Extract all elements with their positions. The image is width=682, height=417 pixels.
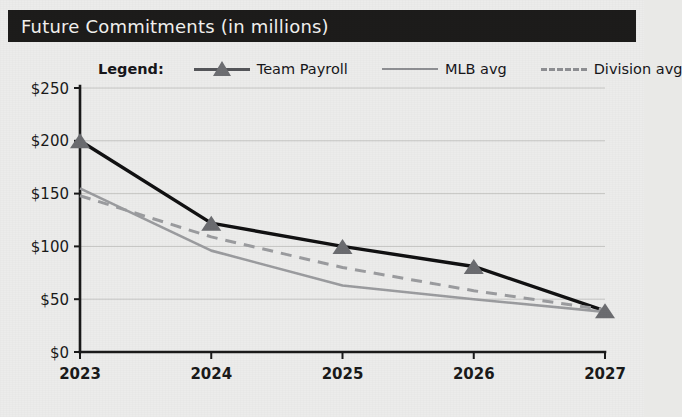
y-axis-tick-label: $250 — [31, 80, 69, 98]
y-axis-tick-label: $200 — [31, 132, 69, 150]
x-axis-tick-label: 2023 — [59, 365, 101, 383]
x-axis-tick-label: 2025 — [322, 365, 364, 383]
data-series-layer — [80, 141, 605, 312]
x-axis-tick-label: 2027 — [584, 365, 626, 383]
y-axis-tick-label: $0 — [50, 344, 69, 362]
y-axis-tick-label: $100 — [31, 238, 69, 256]
x-axis-tick-label: 2026 — [453, 365, 495, 383]
y-axis-tick-label: $150 — [31, 185, 69, 203]
y-axis-labels: $0$50$100$150$200$250 — [31, 80, 69, 362]
data-markers-layer — [70, 133, 615, 318]
x-axis-tick-label: 2024 — [190, 365, 232, 383]
x-axis-labels: 20232024202520262027 — [59, 365, 626, 383]
y-axis-tick-label: $50 — [40, 291, 69, 309]
